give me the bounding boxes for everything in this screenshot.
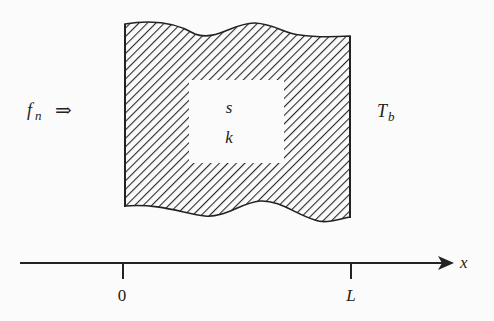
flux-arrow-icon: ⇒ [55,99,72,121]
diagram-canvas: s k f n ⇒ T b x 0 L [0,0,494,321]
source-region [189,80,284,163]
flux-label: f [27,100,35,120]
label-s: s [226,98,233,117]
label-k: k [225,128,233,147]
tick-label-L: L [345,286,355,305]
temperature-label-subscript: b [388,109,395,124]
tick-label-0: 0 [118,286,127,305]
x-axis-label: x [459,253,468,272]
flux-label-subscript: n [35,108,42,123]
